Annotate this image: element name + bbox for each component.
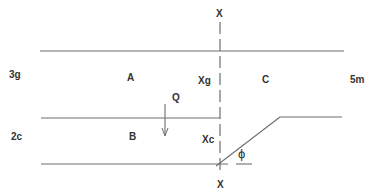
region-label-c: C <box>262 75 269 85</box>
axis-label-top: X <box>216 9 223 19</box>
region-label-a: A <box>127 73 134 83</box>
force-arrow-icon <box>162 104 168 136</box>
slope-line <box>216 117 280 166</box>
axis-label-bottom: X <box>217 180 224 190</box>
geology-cross-section-diagram <box>0 0 375 196</box>
force-label-q: Q <box>172 93 180 103</box>
axis-region-label-xg: Xg <box>198 76 211 86</box>
layer-label-3g: 3g <box>9 70 21 80</box>
region-label-b: B <box>129 132 136 142</box>
layer-label-2c: 2c <box>11 132 22 142</box>
layer-label-5m: 5m <box>350 75 364 85</box>
axis-region-label-xc: Xc <box>202 135 214 145</box>
angle-label-phi: ϕ <box>238 147 245 160</box>
